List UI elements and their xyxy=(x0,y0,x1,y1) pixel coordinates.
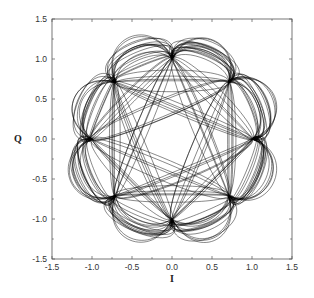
x-tick-label: -0.5 xyxy=(125,262,140,272)
y-tick-label: 0.5 xyxy=(35,94,47,104)
y-axis-title: Q xyxy=(14,133,22,144)
x-tick-label: -1.0 xyxy=(85,262,100,272)
x-axis-title: I xyxy=(170,273,174,284)
x-tick-label: 0.0 xyxy=(166,262,178,272)
y-tick-label: -1.0 xyxy=(32,214,47,224)
x-tick-label: 1.5 xyxy=(286,262,298,272)
x-tick-label: 0.5 xyxy=(206,262,218,272)
signal-trajectory xyxy=(68,35,277,243)
y-tick-label: 0.0 xyxy=(35,134,47,144)
x-tick-label: 1.0 xyxy=(246,262,258,272)
y-tick-label: 1.0 xyxy=(35,54,47,64)
y-tick-label: -0.5 xyxy=(32,174,47,184)
x-tick-label: -1.5 xyxy=(45,262,60,272)
constellation-chart: 1.5 1.0 0.5 0.0 -0.5 -1.0 -1.5 -1.5 -1.0… xyxy=(0,0,314,298)
y-tick-label: 1.5 xyxy=(35,14,47,24)
